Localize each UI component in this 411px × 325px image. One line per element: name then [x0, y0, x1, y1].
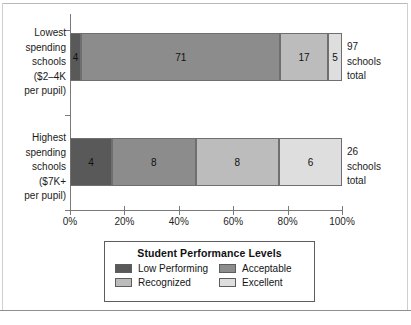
x-axis-tick-label: 80%: [278, 216, 298, 228]
legend-label: Excellent: [242, 277, 283, 288]
legend-label: Low Performing: [138, 263, 208, 274]
stacked-bar: 471175: [70, 33, 342, 81]
legend-label: Acceptable: [242, 263, 291, 274]
bar-segment: 8: [112, 138, 196, 186]
category-label-line: schools: [2, 55, 66, 70]
bar-segment: 6: [279, 138, 342, 186]
x-axis-tick: [179, 206, 180, 215]
legend-swatch: [115, 264, 132, 273]
bar-segment: 4: [70, 33, 81, 81]
bar-segment: 17: [280, 33, 328, 81]
row-total-line: total: [347, 69, 381, 84]
category-label-line: ($7K+: [2, 175, 66, 190]
category-label-line: per pupil): [2, 189, 66, 204]
row-total-line: 26: [347, 145, 381, 160]
category-label-line: spending: [2, 41, 66, 56]
category-label-line: Highest: [2, 131, 66, 146]
category-label-line: per pupil): [2, 84, 66, 99]
category-label-line: spending: [2, 146, 66, 161]
x-axis-tick-label: 100%: [329, 216, 355, 228]
row-total-line: schools: [347, 55, 381, 70]
row-total-line: schools: [347, 160, 381, 175]
category-label-line: ($2–4K: [2, 70, 66, 85]
legend-swatch: [115, 278, 132, 287]
y-axis-tick: [65, 115, 71, 116]
bar-segment: 5: [328, 33, 342, 81]
x-axis-tick-label: 20%: [114, 216, 134, 228]
bar-segment: 71: [81, 33, 280, 81]
stacked-bar: 4886: [70, 138, 342, 186]
x-axis-tick: [342, 206, 343, 215]
legend-label: Recognized: [138, 277, 191, 288]
row-total-line: 97: [347, 40, 381, 55]
plot-area: 0%20%40%60%80%100% Lowestspendingschools…: [0, 0, 411, 232]
chart-legend: Student Performance Levels Low Performin…: [104, 241, 315, 302]
bar-segment: 4: [70, 138, 112, 186]
legend-swatch: [219, 264, 236, 273]
x-axis-tick: [288, 206, 289, 215]
x-axis-tick-label: 0%: [63, 216, 77, 228]
legend-items: Low PerformingAcceptableRecognizedExcell…: [105, 263, 314, 288]
x-axis-tick-label: 60%: [223, 216, 243, 228]
legend-item: Recognized: [105, 277, 209, 288]
x-axis-tick: [124, 206, 125, 215]
bar-segment: 8: [196, 138, 280, 186]
x-axis-line: [70, 210, 342, 211]
x-axis-tick: [70, 206, 71, 215]
figure-frame-bottom: [0, 310, 411, 311]
legend-item: Acceptable: [209, 263, 313, 274]
legend-item: Low Performing: [105, 263, 209, 274]
row-total-line: total: [347, 174, 381, 189]
legend-swatch: [219, 278, 236, 287]
legend-title: Student Performance Levels: [105, 247, 314, 259]
category-label: Lowestspendingschools($2–4Kper pupil): [2, 26, 66, 99]
row-total-label: 97schoolstotal: [347, 40, 381, 84]
row-total-label: 26schoolstotal: [347, 145, 381, 189]
category-label-line: schools: [2, 160, 66, 175]
legend-item: Excellent: [209, 277, 313, 288]
x-axis-tick: [233, 206, 234, 215]
stacked-bar-chart-figure: 0%20%40%60%80%100% Lowestspendingschools…: [0, 0, 411, 325]
category-label-line: Lowest: [2, 26, 66, 41]
category-label: Highestspendingschools($7K+per pupil): [2, 131, 66, 204]
x-axis-tick-label: 40%: [169, 216, 189, 228]
